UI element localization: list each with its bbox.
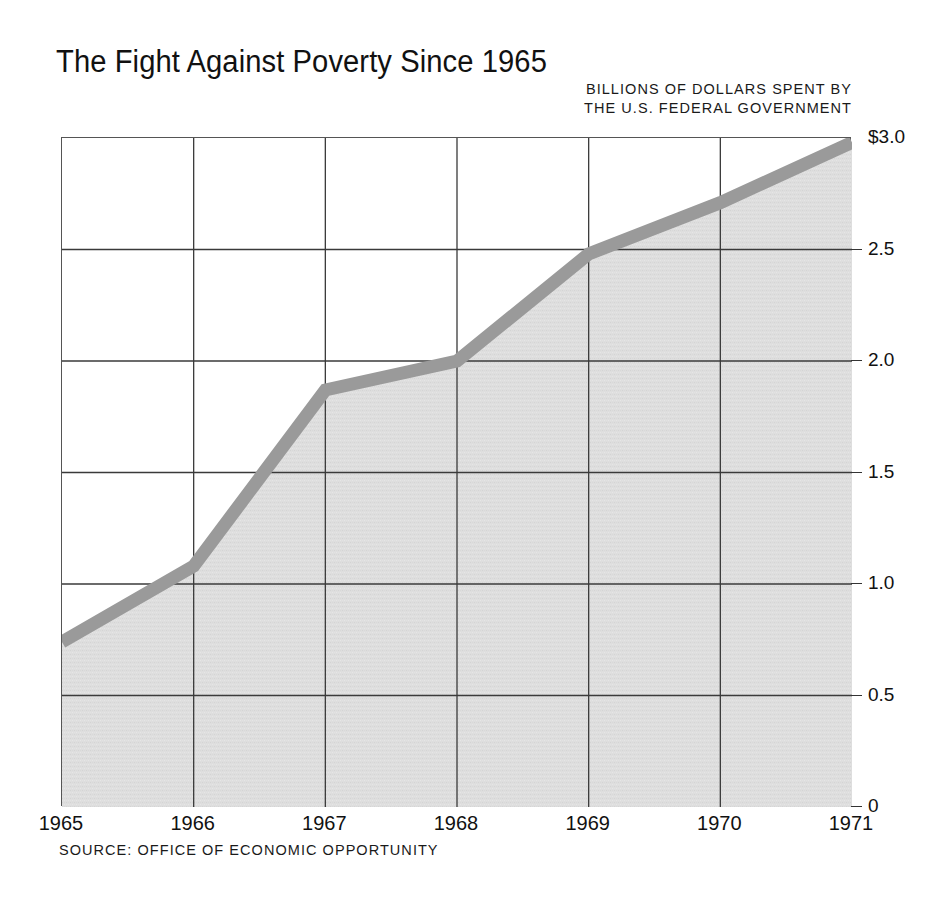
y-axis-label: 1.0: [868, 572, 894, 594]
x-axis-label: 1967: [302, 812, 347, 835]
y-axis-label: $3.0: [868, 126, 905, 148]
y-axis-tick: [851, 695, 862, 696]
y-axis-label: 1.5: [868, 461, 894, 483]
chart-canvas: [62, 138, 852, 807]
chart-title: The Fight Against Poverty Since 1965: [56, 44, 547, 80]
y-axis-tick: [851, 583, 862, 584]
x-axis-label: 1968: [434, 812, 479, 835]
x-axis-label: 1970: [697, 812, 742, 835]
y-axis-label: 0.5: [868, 684, 894, 706]
y-axis-label: 2.5: [868, 238, 894, 260]
x-axis-label: 1971: [829, 812, 874, 835]
y-axis-caption-line-2: THE U.S. FEDERAL GOVERNMENT: [584, 99, 852, 118]
y-axis-tick: [851, 249, 862, 250]
y-axis-label: 2.0: [868, 349, 894, 371]
plot-area: [61, 137, 851, 806]
y-axis-caption: BILLIONS OF DOLLARS SPENT BY THE U.S. FE…: [584, 80, 852, 118]
x-axis-label: 1965: [39, 812, 84, 835]
source-note: SOURCE: OFFICE OF ECONOMIC OPPORTUNITY: [59, 842, 439, 858]
y-axis-tick: [851, 360, 862, 361]
x-axis-label: 1966: [170, 812, 215, 835]
y-axis-tick: [851, 806, 862, 807]
y-axis-tick: [851, 472, 862, 473]
y-axis-caption-line-1: BILLIONS OF DOLLARS SPENT BY: [584, 80, 852, 99]
x-axis-label: 1969: [565, 812, 610, 835]
